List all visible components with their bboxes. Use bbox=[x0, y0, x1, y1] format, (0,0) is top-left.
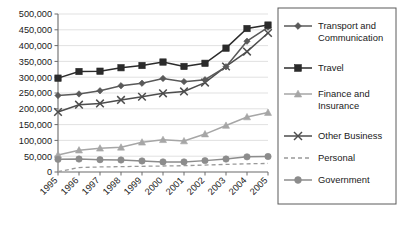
data-point bbox=[118, 83, 124, 89]
y-axis-tick-label: 200,000 bbox=[19, 104, 52, 114]
x-axis-tick-label: 1995 bbox=[38, 175, 60, 197]
y-axis-tick-label: 450,000 bbox=[19, 25, 52, 35]
legend-label: Personal bbox=[318, 152, 355, 163]
data-point bbox=[160, 59, 166, 65]
x-axis-tick-label: 2004 bbox=[227, 175, 249, 197]
y-axis-tick-label: 300,000 bbox=[19, 73, 52, 83]
data-point bbox=[55, 156, 61, 162]
data-point bbox=[118, 157, 124, 163]
y-axis-tick-label: 100,000 bbox=[19, 136, 52, 146]
y-axis-tick-label: 350,000 bbox=[19, 57, 52, 67]
x-axis-tick-label: 1997 bbox=[80, 175, 102, 197]
legend-label: Insurance bbox=[318, 100, 359, 111]
y-axis-tick-labels: 050,000100,000150,000200,000250,000300,0… bbox=[19, 9, 52, 177]
x-axis-tick-label: 2000 bbox=[143, 175, 165, 197]
data-point bbox=[223, 45, 229, 51]
y-axis-tick-label: 250,000 bbox=[19, 88, 52, 98]
data-point bbox=[97, 156, 103, 162]
data-point bbox=[55, 75, 61, 81]
data-point bbox=[76, 91, 82, 97]
x-axis-tick-label: 2005 bbox=[248, 175, 270, 197]
legend-marker-square-icon bbox=[295, 65, 302, 72]
series-government bbox=[55, 153, 271, 165]
data-point bbox=[160, 159, 166, 165]
data-point bbox=[76, 156, 82, 162]
legend-label: Government bbox=[318, 174, 370, 185]
data-point bbox=[223, 156, 229, 162]
data-point bbox=[139, 80, 145, 86]
data-point bbox=[202, 157, 208, 163]
data-point bbox=[76, 68, 82, 74]
data-series bbox=[54, 22, 272, 172]
data-point bbox=[181, 78, 187, 84]
legend-label: Communication bbox=[318, 32, 383, 43]
gridlines bbox=[58, 14, 268, 156]
data-point bbox=[265, 153, 271, 159]
legend-label: Travel bbox=[318, 62, 344, 73]
y-axis-tick-label: 400,000 bbox=[19, 41, 52, 51]
legend-marker-circle-icon bbox=[295, 177, 302, 184]
y-axis-tick-label: 150,000 bbox=[19, 120, 52, 130]
x-axis-tick-label: 2003 bbox=[206, 175, 228, 197]
data-point bbox=[118, 65, 124, 71]
data-point bbox=[265, 109, 272, 115]
series-other-business bbox=[54, 29, 272, 116]
data-point bbox=[160, 75, 166, 81]
data-point bbox=[97, 68, 103, 74]
x-axis-tick-label: 1998 bbox=[101, 175, 123, 197]
legend-label: Finance and bbox=[318, 88, 370, 99]
data-point bbox=[181, 159, 187, 165]
data-point bbox=[244, 154, 250, 160]
data-point bbox=[243, 48, 251, 56]
x-axis-tick-label: 2001 bbox=[164, 175, 186, 197]
series-finance-and-insurance bbox=[55, 109, 272, 158]
data-point bbox=[139, 62, 145, 68]
data-point bbox=[181, 63, 187, 69]
y-axis-tick-label: 500,000 bbox=[19, 9, 52, 19]
x-axis-tick-label: 1996 bbox=[59, 175, 81, 197]
chart-svg: 050,000100,000150,000200,000250,000300,0… bbox=[0, 0, 401, 228]
legend-label: Other Business bbox=[318, 130, 382, 141]
data-point bbox=[244, 25, 250, 31]
x-axis-tick-labels: 1995199619971998199920002001200220032004… bbox=[38, 175, 270, 197]
chart-legend: Transport andCommunicationTravelFinance … bbox=[278, 8, 396, 204]
x-axis-tick-label: 1999 bbox=[122, 175, 144, 197]
data-point bbox=[202, 60, 208, 66]
x-axis-tick-label: 2002 bbox=[185, 175, 207, 197]
y-axis-tick-label: 50,000 bbox=[24, 152, 52, 162]
line-chart: 050,000100,000150,000200,000250,000300,0… bbox=[0, 0, 401, 228]
data-point bbox=[139, 158, 145, 164]
legend-label: Transport and bbox=[318, 20, 376, 31]
data-point bbox=[265, 22, 271, 28]
